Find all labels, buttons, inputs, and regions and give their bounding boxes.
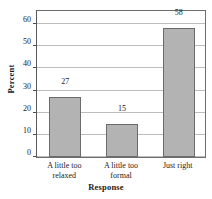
x-axis-category-label-line: Just right xyxy=(163,161,193,171)
bar-value-label: 58 xyxy=(175,8,183,17)
y-axis-tick-label: 50 xyxy=(9,37,31,46)
bar xyxy=(106,124,138,157)
x-axis-category-label: A little toorelaxed xyxy=(47,161,81,181)
bar-value-label: 15 xyxy=(118,104,126,113)
y-axis-tick-label: 20 xyxy=(9,103,31,112)
plot-area: 0102030405060271558 xyxy=(36,10,206,158)
x-axis-category-label: A little tooformal xyxy=(104,161,138,181)
x-axis-category-label: Just right xyxy=(163,161,193,171)
x-axis-category-label-line: A little too xyxy=(104,161,138,171)
gridline xyxy=(37,23,205,24)
y-axis-tick-label: 40 xyxy=(9,59,31,68)
y-axis-tick-label: 60 xyxy=(9,15,31,24)
y-axis-tick-label: 10 xyxy=(9,125,31,134)
y-axis-spine xyxy=(36,10,37,158)
bar-value-label: 27 xyxy=(61,77,69,86)
bar-chart: Percent 0102030405060271558 A little too… xyxy=(0,0,212,199)
bar xyxy=(49,97,81,157)
x-axis-category-label-line: relaxed xyxy=(47,171,81,181)
x-axis-category-label-line: A little too xyxy=(47,161,81,171)
x-axis-title: Response xyxy=(0,182,212,192)
bar xyxy=(163,28,195,157)
y-axis-tick-label: 30 xyxy=(9,81,31,90)
plot-inner: 0102030405060271558 xyxy=(37,11,205,157)
x-axis-category-label-line: formal xyxy=(104,171,138,181)
y-axis-tick-label: 0 xyxy=(9,148,31,157)
